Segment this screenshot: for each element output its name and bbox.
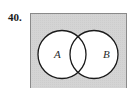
venn-diagram: A B (0, 0, 131, 88)
set-a-label: A (53, 48, 61, 60)
set-b-label: B (103, 48, 110, 60)
